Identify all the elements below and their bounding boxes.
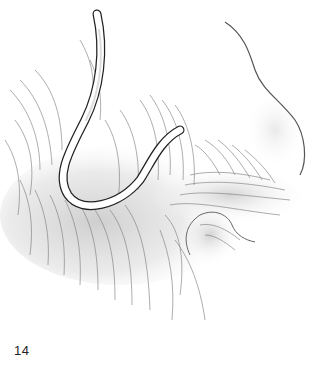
figure-number: 14 [14,343,29,358]
skin-shading [0,90,310,285]
medical-illustration [0,0,323,340]
